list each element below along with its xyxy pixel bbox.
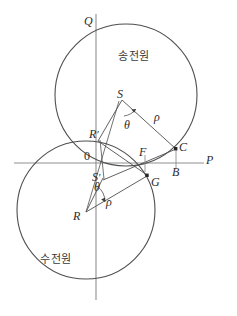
measure-label-rho-upper: ρ xyxy=(154,111,160,123)
point-label-g: G xyxy=(151,176,160,188)
segment-r-prime-to-s-prime xyxy=(100,140,104,179)
point-label-r-prime: R′ xyxy=(89,128,99,140)
axis-label-q: Q xyxy=(84,15,93,27)
point-marker-g xyxy=(145,174,148,177)
segment-s-to-c xyxy=(122,100,176,149)
origin-label: 0 xyxy=(84,150,90,162)
point-marker-c xyxy=(174,147,177,150)
point-label-f: F xyxy=(139,146,146,158)
measure-label-theta-upper: θ xyxy=(124,119,130,131)
angle-arrow-theta-lower xyxy=(101,197,105,202)
upper-circle xyxy=(55,24,197,166)
measure-label-rho-lower: ρ xyxy=(106,196,112,208)
measure-label-theta-lower: θ xyxy=(94,181,100,193)
point-label-b: B xyxy=(172,166,179,178)
segment-s-to-r-prime xyxy=(98,100,122,141)
diagram-canvas xyxy=(0,0,237,316)
axis-label-p: P xyxy=(206,154,213,166)
point-label-c: C xyxy=(179,141,187,153)
point-label-s: S xyxy=(117,88,123,100)
geometry-diagram: Q P 0 송전원 수전원 S R′ S′ R C B F G ρ ρ θ θ xyxy=(0,0,237,316)
point-label-r: R xyxy=(73,210,80,222)
lower-circle-label: 수전원 xyxy=(40,254,72,265)
upper-circle-label: 송전원 xyxy=(118,51,150,62)
